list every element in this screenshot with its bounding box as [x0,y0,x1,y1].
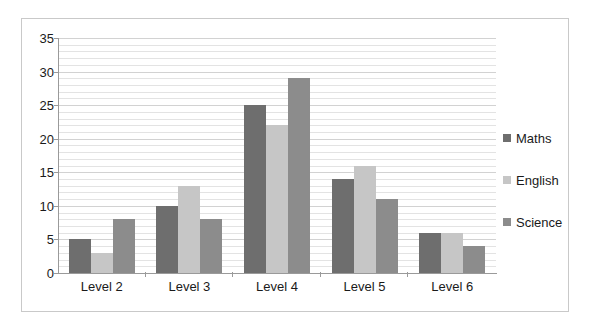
y-axis-tick-mark [54,72,59,73]
legend-item-english[interactable]: English [503,165,569,195]
bar-science-level-2[interactable] [113,219,135,273]
bar-maths-level-5[interactable] [332,179,354,273]
bar-maths-level-3[interactable] [156,206,178,273]
y-axis-tick-labels: 35302520151050 [22,38,54,273]
bar-science-level-3[interactable] [200,219,222,273]
plot-wrapper: 35302520151050 Level 2Level 3Level 4Leve… [22,19,568,311]
x-axis-label-level-5: Level 5 [321,279,409,294]
chart-legend: MathsEnglishScience [503,123,569,249]
y-axis-tick-mark [54,239,59,240]
y-axis-tick-mark [54,105,59,106]
y-axis-tick-mark [54,206,59,207]
y-axis-tick-label: 20 [24,132,54,145]
bar-maths-level-2[interactable] [69,239,91,273]
bar-group [146,38,234,273]
legend-item-maths[interactable]: Maths [503,123,569,153]
bar-english-level-3[interactable] [178,186,200,273]
legend-label: Maths [516,131,551,146]
x-axis-label-level-3: Level 3 [146,279,234,294]
legend-label: Science [516,215,562,230]
bar-group [233,38,321,273]
x-axis-label-level-6: Level 6 [408,279,496,294]
bar-english-level-6[interactable] [441,233,463,273]
bar-group [408,38,496,273]
legend-swatch-icon [503,176,511,184]
bar-science-level-4[interactable] [288,78,310,273]
y-axis-tick-mark [54,273,59,274]
y-axis-tick-label: 5 [24,233,54,246]
chart-container: 35302520151050 Level 2Level 3Level 4Leve… [21,18,569,312]
legend-swatch-icon [503,218,511,226]
bar-group [321,38,409,273]
bar-science-level-6[interactable] [463,246,485,273]
x-axis-category-labels: Level 2Level 3Level 4Level 5Level 6 [58,279,496,294]
bar-english-level-4[interactable] [266,125,288,273]
bar-english-level-5[interactable] [354,166,376,273]
bar-science-level-5[interactable] [376,199,398,273]
bars-layer [58,38,496,273]
legend-swatch-icon [503,134,511,142]
y-axis-tick-mark [54,172,59,173]
y-axis-tick-mark [54,139,59,140]
legend-item-science[interactable]: Science [503,207,569,237]
y-axis-tick-label: 10 [24,199,54,212]
y-axis-tick-label: 30 [24,65,54,78]
bar-english-level-2[interactable] [91,253,113,273]
x-axis-label-level-2: Level 2 [58,279,146,294]
legend-label: English [516,173,559,188]
y-axis-tick-label: 15 [24,166,54,179]
y-axis-tick-mark [54,38,59,39]
bar-group [58,38,146,273]
bar-maths-level-4[interactable] [244,105,266,273]
y-axis-tick-label: 25 [24,99,54,112]
x-axis-label-level-4: Level 4 [233,279,321,294]
x-axis-line [58,273,497,274]
y-axis-tick-label: 0 [24,267,54,280]
bar-maths-level-6[interactable] [419,233,441,273]
y-axis-tick-label: 35 [24,32,54,45]
